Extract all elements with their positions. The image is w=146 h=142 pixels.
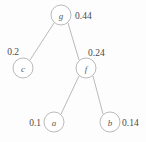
edge-g-c bbox=[30, 23, 54, 60]
node-label-c: c bbox=[21, 64, 25, 74]
weight-label-f: 0.24 bbox=[88, 48, 105, 58]
node-f[interactable]: f bbox=[76, 58, 96, 78]
node-g[interactable]: g bbox=[51, 5, 71, 25]
edge-g-f bbox=[68, 23, 79, 60]
node-a[interactable]: a bbox=[44, 112, 64, 132]
tree-diagram-svg: g c f a b 0.44 0.2 0.24 0.1 bbox=[0, 0, 146, 142]
edge-f-b bbox=[93, 76, 103, 114]
node-group: g c f a b bbox=[13, 5, 120, 132]
weight-label-g: 0.44 bbox=[75, 11, 92, 21]
node-label-b: b bbox=[108, 118, 113, 128]
node-label-a: a bbox=[52, 118, 57, 128]
node-b[interactable]: b bbox=[100, 112, 120, 132]
weight-label-b: 0.14 bbox=[122, 118, 139, 128]
weight-label-c: 0.2 bbox=[7, 47, 19, 57]
weight-label-a: 0.1 bbox=[29, 118, 41, 128]
node-c[interactable]: c bbox=[13, 58, 33, 78]
tree-diagram-canvas: g c f a b 0.44 0.2 0.24 0.1 bbox=[0, 0, 146, 142]
node-label-g: g bbox=[59, 11, 64, 21]
edge-f-a bbox=[61, 76, 79, 114]
